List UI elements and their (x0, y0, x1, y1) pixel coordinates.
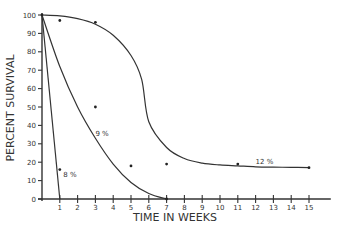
axes: 0102030405060708090100123456789101112131… (23, 12, 331, 213)
data-point (58, 19, 61, 22)
series-annotation: 12 % (256, 158, 274, 166)
y-axis-label: PERCENT SURVIVAL (4, 54, 17, 162)
y-tick-label: 30 (27, 140, 36, 148)
x-tick-label: 4 (111, 204, 116, 212)
y-tick-label: 70 (27, 67, 36, 75)
data-point (130, 164, 133, 167)
survival-chart: 0102030405060708090100123456789101112131… (0, 0, 343, 234)
x-tick-label: 13 (269, 204, 278, 212)
data-point (41, 14, 44, 17)
data-point (236, 163, 239, 166)
y-tick-label: 90 (27, 30, 36, 38)
x-axis-label: TIME IN WEEKS (132, 211, 217, 224)
series-curve-12pct (42, 15, 309, 168)
x-tick-label: 1 (58, 204, 62, 212)
x-tick-label: 11 (233, 204, 242, 212)
y-tick-label: 60 (27, 85, 36, 93)
x-tick-label: 3 (93, 204, 97, 212)
data-point (58, 168, 61, 171)
y-tick-label: 10 (27, 177, 36, 185)
x-tick-label: 12 (251, 204, 260, 212)
data-point (165, 163, 168, 166)
series-curve-9pct (42, 15, 167, 199)
annotations: 8 %9 %12 % (63, 130, 273, 178)
curves (42, 15, 309, 199)
data-point (165, 198, 168, 201)
y-tick-label: 50 (27, 104, 36, 112)
data-point (308, 166, 311, 169)
data-point (94, 106, 97, 109)
data-points (41, 14, 311, 201)
y-tick-label: 40 (27, 122, 36, 130)
y-tick-label: 0 (32, 196, 36, 204)
x-tick-label: 2 (75, 204, 79, 212)
y-tick-label: 100 (23, 12, 36, 20)
x-tick-label: 14 (287, 204, 296, 212)
series-annotation: 8 % (63, 171, 77, 179)
series-annotation: 9 % (95, 130, 109, 138)
y-tick-label: 20 (27, 159, 36, 167)
y-tick-label: 80 (27, 48, 36, 56)
x-tick-label: 15 (305, 204, 314, 212)
data-point (94, 21, 97, 24)
